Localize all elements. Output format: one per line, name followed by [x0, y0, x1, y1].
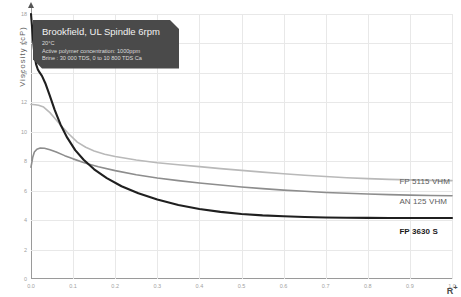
series-label: FP 5115 VHM [399, 177, 450, 186]
annotation-temperature: 20°C [42, 40, 171, 48]
y-tick-label: 18 [21, 11, 27, 17]
y-tick-label: 4 [24, 217, 27, 223]
x-axis-title: R+ [447, 284, 458, 296]
conditions-annotation: Brookfield, UL Spindle 6rpm 20°C Active … [33, 20, 179, 69]
x-tick-label: 0.6 [280, 283, 288, 289]
y-tick-label: 2 [24, 247, 27, 253]
y-tick-label: 6 [24, 188, 27, 194]
annotation-headline: Brookfield, UL Spindle 6rpm [42, 26, 171, 38]
gridline-vertical [452, 14, 453, 279]
x-tick-label: 0.8 [364, 283, 372, 289]
x-tick-label: 0.3 [153, 283, 161, 289]
x-tick-label: 0.1 [69, 283, 77, 289]
viscosity-chart: Viscosity (cP) 024681012141618 0.00.10.2… [0, 0, 461, 297]
x-tick-label: 0.5 [238, 283, 246, 289]
y-tick-label: 16 [21, 40, 27, 46]
series-label: FP 3630 S [399, 227, 438, 236]
x-tick-label: 0.9 [406, 283, 414, 289]
x-tick-label: 0.7 [322, 283, 330, 289]
x-tick-label: 0.4 [196, 283, 204, 289]
series-label: AN 125 VHM [399, 197, 447, 206]
x-tick-label: 0.2 [111, 283, 119, 289]
series-line [31, 148, 452, 196]
y-tick-label: 8 [24, 158, 27, 164]
y-tick-label: 12 [21, 99, 27, 105]
y-tick-label: 10 [21, 129, 27, 135]
y-axis-arrow-icon [28, 2, 34, 8]
y-tick-label: 0 [24, 276, 27, 282]
x-tick-label: 0.0 [27, 283, 35, 289]
annotation-brine: Brine : 30 000 TDS, 0 to 10 800 TDS Ca [42, 55, 171, 63]
y-tick-label: 14 [21, 70, 27, 76]
annotation-concentration: Active polymer concentration: 1000ppm [42, 48, 171, 56]
